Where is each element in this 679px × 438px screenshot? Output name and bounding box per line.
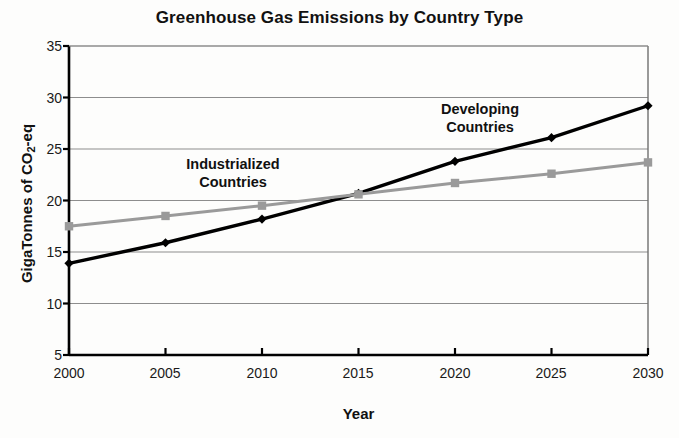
data-point-marker bbox=[450, 157, 459, 166]
series-industrialized-countries bbox=[65, 158, 652, 230]
data-point-marker bbox=[547, 170, 555, 178]
plot-area bbox=[0, 0, 679, 438]
data-point-marker bbox=[451, 179, 459, 187]
data-point-marker bbox=[258, 201, 266, 209]
data-point-marker bbox=[65, 222, 73, 230]
data-point-marker bbox=[257, 214, 266, 223]
data-point-marker bbox=[354, 190, 362, 198]
chart-container: Greenhouse Gas Emissions by Country Type… bbox=[0, 0, 679, 438]
data-point-marker bbox=[161, 238, 170, 247]
data-point-marker bbox=[643, 101, 652, 110]
data-point-marker bbox=[161, 212, 169, 220]
series-developing-countries bbox=[64, 101, 652, 268]
series-layer bbox=[64, 101, 652, 268]
gridlines bbox=[69, 46, 648, 304]
data-point-marker bbox=[64, 259, 73, 268]
data-point-marker bbox=[644, 158, 652, 166]
series-line bbox=[69, 106, 648, 264]
data-point-marker bbox=[547, 133, 556, 142]
